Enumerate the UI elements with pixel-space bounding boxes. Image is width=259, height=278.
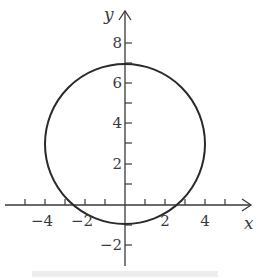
- y-axis-label: y: [103, 4, 114, 24]
- y-tick-label: 4: [112, 114, 122, 132]
- y-tick-label: 2: [112, 155, 122, 173]
- y-tick-label: 6: [112, 74, 122, 92]
- x-tick-label: −2: [71, 212, 93, 230]
- y-ticks: [125, 43, 132, 245]
- y-tick-label: 8: [112, 34, 122, 52]
- caption-bar: [32, 271, 218, 277]
- x-tick-label: 2: [160, 212, 170, 230]
- x-tick-label: −4: [31, 212, 53, 230]
- y-tick-label: −2: [100, 236, 122, 254]
- x-tick-label: 4: [200, 212, 210, 230]
- coordinate-plane: −4 −2 2 4 8 6 4 2 −2 y x: [0, 0, 259, 278]
- x-axis-label: x: [244, 213, 254, 233]
